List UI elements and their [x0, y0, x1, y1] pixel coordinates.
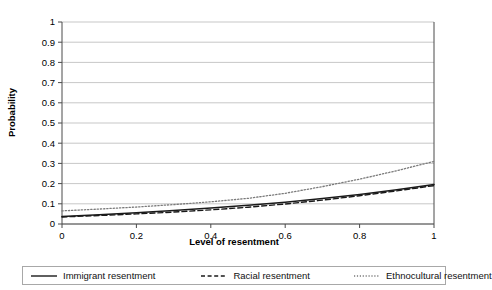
- legend-label-ethnocultural-resentment: Ethnocultural resentment: [386, 271, 492, 281]
- y-tick-label: 0.5: [42, 117, 55, 128]
- y-tick-label: 1: [50, 16, 55, 27]
- chart-legend: Immigrant resentment Racial resentment E…: [22, 266, 446, 285]
- data-series: [62, 161, 434, 217]
- legend-label-racial-resentment: Racial resentment: [233, 271, 310, 281]
- legend-swatch-dotted-icon: [354, 271, 380, 281]
- legend-entry-ethnocultural-resentment: Ethnocultural resentment: [354, 267, 492, 284]
- legend-swatch-solid-icon: [31, 271, 57, 281]
- legend-entry-racial-resentment: Racial resentment: [201, 267, 310, 284]
- y-axis-title: Probability: [6, 81, 17, 145]
- y-tick-label: 0.8: [42, 57, 55, 68]
- y-tick-label: 0: [50, 218, 55, 229]
- y-tick-label: 0.1: [42, 198, 55, 209]
- y-tick-label: 0.6: [42, 97, 55, 108]
- y-tick-label: 0.4: [42, 138, 55, 149]
- legend-label-immigrant-resentment: Immigrant resentment: [63, 271, 155, 281]
- y-axis-ticks: 00.10.20.30.40.50.60.70.80.91: [42, 16, 62, 229]
- series-line-immigrant-resentment: [62, 185, 434, 217]
- legend-swatch-dashed-icon: [201, 271, 227, 281]
- x-axis-title: Level of resentment: [0, 236, 468, 247]
- y-tick-label: 0.7: [42, 77, 55, 88]
- y-tick-label: 0.9: [42, 37, 55, 48]
- legend-entry-immigrant-resentment: Immigrant resentment: [31, 267, 155, 284]
- series-line-racial-resentment: [62, 186, 434, 217]
- y-tick-label: 0.2: [42, 178, 55, 189]
- y-tick-label: 0.3: [42, 158, 55, 169]
